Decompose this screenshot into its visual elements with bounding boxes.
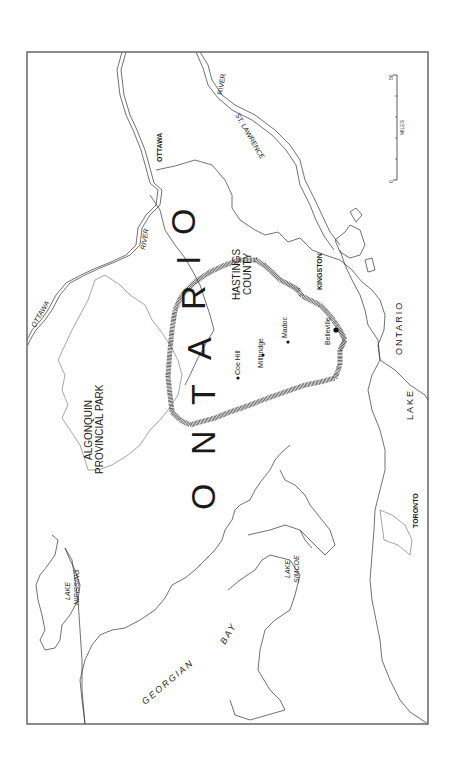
- map-canvas: O N T A R I O HASTINGS COUNTY ALGONQUIN …: [0, 0, 456, 765]
- label-ontario-I: I: [169, 256, 207, 265]
- label-ontario-O2: O: [164, 209, 202, 235]
- label-belleville: Belleville: [324, 317, 331, 345]
- label-millbridge: Millbridge: [257, 338, 265, 368]
- label-ottawa-river-b: RIVER: [139, 228, 150, 250]
- scale-max: 50: [388, 74, 394, 80]
- label-st-lawrence-river: RIVER: [216, 73, 227, 95]
- scale-bar: 50 0 MILES: [388, 74, 405, 183]
- ottawa-river: [28, 52, 162, 345]
- label-lake-nipissing-1: LAKE: [64, 582, 71, 600]
- label-provincial-park: PROVINCIAL PARK: [94, 384, 105, 474]
- label-coe-hill: Coe Hill: [234, 350, 241, 375]
- label-ontario-T: T: [184, 384, 222, 405]
- town-dot-madoc: [286, 340, 289, 343]
- label-georgian: GEORGIAN: [140, 657, 196, 706]
- label-lake-ontario-a: LAKE: [405, 389, 415, 420]
- scale-unit: MILES: [399, 119, 405, 135]
- bruce-peninsula: [228, 555, 300, 720]
- label-lake-ontario-b: ONTARIO: [394, 301, 404, 355]
- label-hastings: HASTINGS: [231, 249, 242, 300]
- label-toronto: TORONTO: [412, 493, 419, 528]
- lake-ontario-shore: [340, 250, 428, 724]
- label-madoc: Madoc: [281, 316, 288, 338]
- label-ontario-R: R: [174, 285, 212, 310]
- label-lake-simcoe-1: LAKE: [284, 560, 291, 578]
- algonquin-park-boundary: [58, 275, 182, 470]
- rideau-shore: [156, 160, 428, 400]
- label-lake-nipissing-2: NIPISSING: [73, 569, 80, 605]
- label-algonquin: ALGONQUIN: [83, 400, 94, 460]
- label-ontario-O1: O: [184, 484, 222, 510]
- label-kingston: KINGSTON: [316, 253, 323, 290]
- label-lake-simcoe-2: SIMCOE: [293, 555, 300, 583]
- scale-min: 0: [388, 180, 394, 183]
- label-ottawa-city: OTTAWA: [156, 133, 163, 162]
- label-ontario-A: A: [180, 337, 218, 360]
- toronto-boundary: [380, 510, 412, 555]
- label-ontario-N: N: [184, 430, 222, 455]
- label-ottawa-river-a: OTTAWA: [30, 299, 51, 328]
- lake-simcoe-shore: [248, 470, 335, 555]
- label-county: COUNTY: [242, 252, 253, 295]
- town-dot-coe-hill: [236, 376, 239, 379]
- label-bay: BAY: [218, 621, 238, 646]
- town-dot-belleville: [333, 327, 338, 332]
